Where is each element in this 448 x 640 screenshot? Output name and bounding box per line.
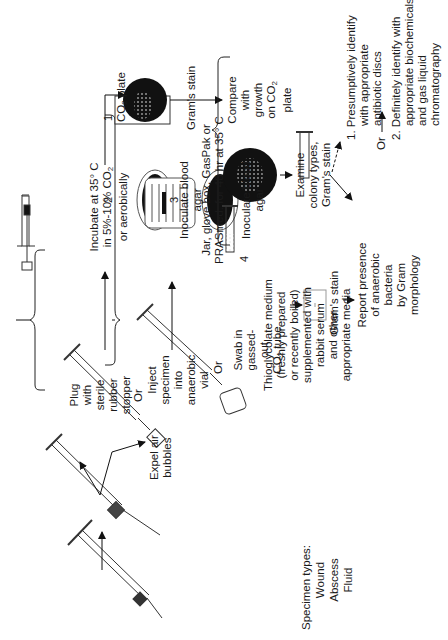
compare-label: Compare with growth on CO2 plate [226,65,294,135]
plug-label: Plug with sterile rubber stopper [68,365,133,425]
co2-plate-label: CO2 plate [115,72,131,122]
aerobic-incubation-label: Incubate at 35° C in 5%-10% CO2 or aerob… [88,152,130,262]
step-number-4: 4 [238,256,250,262]
specimen-type-abscess: Abscess [328,550,341,610]
specimen-type-fluid: Fluid [342,550,355,610]
step-3-label: Inoculate bloodagar [240,150,266,250]
step-number-1: 1 [102,115,114,121]
identify-2: 2. Definitely identify with appropriate … [390,0,442,140]
step-1-label: Gram's stain [185,66,198,130]
expel-air-label: Expel airbubbles [148,435,174,480]
or-label-1: Or [132,389,145,402]
step-number-3: 3 [168,197,180,203]
examine-label: Examine colony types, Gram's stain [294,130,333,220]
specimen-heading: Specimen types: [300,545,313,630]
inject-label: Inject specimen into anaerobic vial [146,335,211,425]
specimen-type-wound: Wound [314,550,327,610]
anaerobic-incubation-label: Jar, glove box, GasPak or PRASmed. for 4… [200,105,226,275]
report-label: Report presence of anaerobic bacteria by… [356,235,421,335]
thio-gram-stain-label: Gram's stain [328,271,341,335]
anaerobic-culture-flowchart: Specimen types: Wound Abscess Fluid Expe… [0,0,448,640]
identify-1: 1. Presumptively identify with appropria… [345,15,384,140]
or-label-2: Or [212,361,225,374]
